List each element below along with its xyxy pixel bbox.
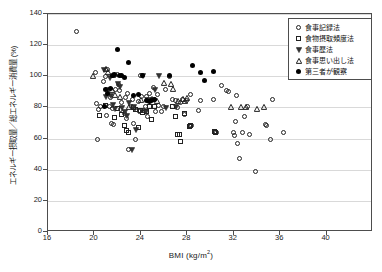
x-tick-label-32: 32 [221,234,245,242]
y-tick-mark-20 [43,200,47,201]
y-tick-label-20: 20 [14,196,42,204]
x-tick-label-24: 24 [128,234,152,242]
x-axis-title: BMI (kg/m2) [0,249,382,260]
legend-marker-triangle-down-icon [293,47,305,53]
legend-label: 食物摂取頻度法 [305,35,354,43]
y-tick-label-60: 60 [14,134,42,142]
legend-label: 食事記録法 [305,24,340,32]
scatter-chart: 020406080100120140 16202428323640 BMI (k… [0,0,382,272]
y-tick-label-120: 120 [14,40,42,48]
x-tick-mark-16 [47,231,48,235]
x-tick-mark-32 [233,231,234,235]
legend-label: 食事思い出し法 [305,57,354,65]
y-tick-mark-60 [43,138,47,139]
legend-item-1[interactable]: 食事記録法 [293,22,369,33]
legend: 食事記録法食物摂取頻度法食事歴法食事思い出し法第三者が観察 [288,18,372,80]
y-tick-mark-120 [43,44,47,45]
y-tick-mark-140 [43,13,47,14]
y-tick-label-140: 140 [14,9,42,17]
x-tick-mark-24 [140,231,141,235]
x-tick-label-40: 40 [314,234,338,242]
x-tick-label-20: 20 [81,234,105,242]
legend-marker-open-square-icon [293,36,305,42]
x-tick-label-36: 36 [267,234,291,242]
y-tick-label-100: 100 [14,71,42,79]
x-tick-mark-20 [93,231,94,235]
legend-label: 食事歴法 [305,46,333,54]
y-tick-label-80: 80 [14,102,42,110]
legend-item-4[interactable]: 食事思い出し法 [293,55,369,66]
y-tick-mark-40 [43,169,47,170]
y-tick-mark-80 [43,106,47,107]
x-tick-mark-28 [186,231,187,235]
x-tick-mark-40 [326,231,327,235]
y-tick-label-40: 40 [14,165,42,173]
x-tick-mark-36 [279,231,280,235]
x-axis-title-paren: ) [210,251,213,260]
x-axis-title-text: BMI (kg/m [169,251,207,260]
legend-marker-open-circle-icon [293,25,305,31]
legend-item-2[interactable]: 食物摂取頻度法 [293,33,369,44]
y-axis-title: エネルギー摂取量／総エネルギー消費量 (%) [7,16,18,216]
legend-label: 第三者が観察 [305,68,347,76]
x-tick-label-16: 16 [35,234,59,242]
legend-marker-filled-circle-icon [293,69,305,75]
legend-marker-triangle-up-icon [293,58,305,64]
y-tick-mark-100 [43,75,47,76]
x-tick-label-28: 28 [174,234,198,242]
legend-item-5[interactable]: 第三者が観察 [293,66,369,77]
legend-item-3[interactable]: 食事歴法 [293,44,369,55]
